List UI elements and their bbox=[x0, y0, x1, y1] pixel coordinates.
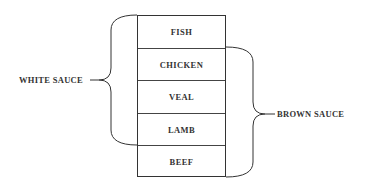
white-sauce-label: WHITE SAUCE bbox=[19, 75, 83, 85]
row-chicken: CHICKEN bbox=[138, 48, 225, 81]
brown-sauce-label: BROWN SAUCE bbox=[277, 109, 344, 119]
row-label: FISH bbox=[171, 27, 192, 37]
row-label: VEAL bbox=[169, 92, 194, 102]
row-lamb: LAMB bbox=[138, 113, 225, 146]
brown-sauce-brace bbox=[226, 47, 265, 177]
white-sauce-brace bbox=[99, 15, 137, 145]
row-label: BEEF bbox=[170, 157, 194, 167]
row-label: LAMB bbox=[168, 125, 195, 135]
meat-stack: FISH CHICKEN VEAL LAMB BEEF bbox=[137, 15, 226, 177]
row-label: CHICKEN bbox=[160, 60, 203, 70]
row-fish: FISH bbox=[138, 16, 225, 48]
row-beef: BEEF bbox=[138, 145, 225, 178]
row-veal: VEAL bbox=[138, 80, 225, 113]
